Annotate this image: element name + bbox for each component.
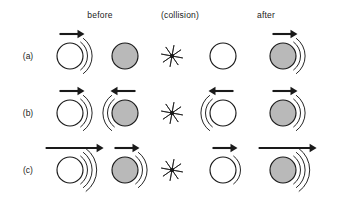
white-ball-group [201, 87, 236, 131]
column-header-3: after [257, 10, 275, 20]
white-ball-icon [210, 100, 236, 126]
white-ball-icon [210, 43, 236, 69]
white-ball-group [46, 144, 104, 192]
white-ball-icon [57, 157, 83, 183]
gray-ball-icon [270, 157, 296, 183]
gray-ball-group [270, 30, 305, 74]
burst-center-dot [170, 168, 174, 172]
motion-arrow-head [78, 87, 85, 95]
burst-center-dot [170, 111, 174, 115]
motion-arrow-head [78, 30, 85, 38]
gray-ball-icon [112, 157, 138, 183]
motion-arrow-head [291, 87, 298, 95]
row-label-1: (a) [23, 51, 33, 61]
column-header-1: before [87, 10, 112, 20]
diagram-row-1 [57, 30, 305, 74]
gray-ball-group [259, 144, 317, 192]
white-ball-group [57, 87, 92, 131]
row-label-2: (b) [23, 108, 33, 118]
white-ball-group [210, 43, 236, 69]
collision-diagram: before(collision)after (a)(b)(c) [0, 0, 343, 207]
collision-burst-group [161, 45, 183, 67]
motion-arrow-head [291, 30, 298, 38]
row-label-3: (c) [23, 165, 33, 175]
collision-diagram-canvas [0, 0, 343, 207]
gray-ball-icon [112, 100, 138, 126]
motion-arrow-head [231, 144, 238, 152]
motion-arrow-head [97, 144, 104, 152]
gray-ball-group [103, 87, 138, 131]
diagram-row-2 [57, 87, 305, 131]
motion-arrow-head [111, 87, 118, 95]
gray-ball-icon [112, 43, 138, 69]
gray-ball-icon [270, 100, 296, 126]
gray-ball-icon [270, 43, 296, 69]
collision-burst-group [161, 159, 183, 181]
white-ball-group [57, 30, 92, 74]
gray-ball-group [112, 43, 138, 69]
white-ball-icon [210, 157, 236, 183]
gray-ball-group [112, 144, 147, 188]
motion-arrow-head [310, 144, 317, 152]
gray-ball-group [270, 87, 305, 131]
motion-arrow-head [133, 144, 140, 152]
collision-burst-group [161, 102, 183, 124]
diagram-row-3 [46, 144, 317, 192]
burst-center-dot [170, 54, 174, 58]
column-header-2: (collision) [161, 10, 199, 20]
white-ball-icon [57, 43, 83, 69]
motion-arrow-head [209, 87, 216, 95]
white-ball-group [210, 144, 240, 184]
white-ball-icon [57, 100, 83, 126]
